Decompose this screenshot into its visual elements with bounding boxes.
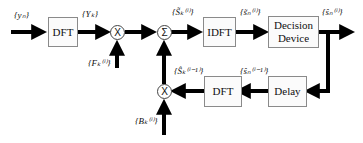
label-delay-output: {ŝₙ⁽ⁱ⁻¹⁾} [240, 66, 268, 76]
decision-device-block: Decision Device [268, 16, 319, 48]
dft-bottom-label: DFT [213, 85, 234, 98]
multiply-symbol: X [161, 86, 168, 97]
idft-block: IDFT [203, 17, 236, 47]
sum-symbol: Σ [161, 27, 167, 38]
label-input-yn: {yₙ} [14, 10, 29, 20]
multiply-symbol: X [114, 27, 121, 38]
dft-top-label: DFT [53, 26, 74, 39]
delay-label: Delay [274, 85, 300, 98]
label-B-coefficients: {Bₖ⁽ⁱ⁾} [135, 116, 158, 126]
label-decision-output: {ŝₙ⁽ⁱ⁾} [322, 7, 343, 17]
summation-node: Σ [157, 25, 172, 40]
label-F-coefficients: {Fₖ⁽ⁱ⁾} [88, 58, 111, 68]
dft-block-top: DFT [48, 17, 78, 47]
multiplier-node-top: X [110, 25, 125, 40]
delay-block: Delay [268, 76, 307, 107]
label-dft-output-Yk: {Yₖ} [82, 9, 98, 19]
decision-label-line2: Device [278, 32, 309, 45]
idft-label: IDFT [207, 26, 231, 39]
label-sum-output: {S̃ₖ⁽ⁱ⁾} [172, 7, 194, 17]
label-idft-output: {s̃ₙ⁽ⁱ⁾} [240, 7, 261, 17]
dft-block-bottom: DFT [204, 76, 242, 107]
decision-label-line1: Decision [274, 19, 313, 32]
multiplier-node-bottom: X [157, 84, 172, 99]
label-dft-bottom-output: {Ŝₖ⁽ⁱ⁻¹⁾} [174, 66, 203, 76]
